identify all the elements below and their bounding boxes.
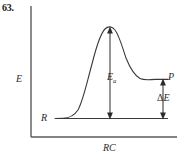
product-label: P [167,71,174,82]
delta-energy-letter: E [162,92,169,103]
y-axis-label: E [15,73,22,84]
reaction-energy-diagram-figure: 63. E RC R P Ea ΔE [0,0,182,158]
energy-profile-plot: E RC R P Ea ΔE [0,0,182,158]
activation-energy-subscript: a [113,77,116,84]
delta-energy-label: ΔE [157,92,170,103]
activation-energy-label: Ea [106,71,116,84]
activation-energy-letter: E [106,71,113,82]
reactant-label: R [40,112,47,123]
x-axis-label: RC [102,142,116,153]
